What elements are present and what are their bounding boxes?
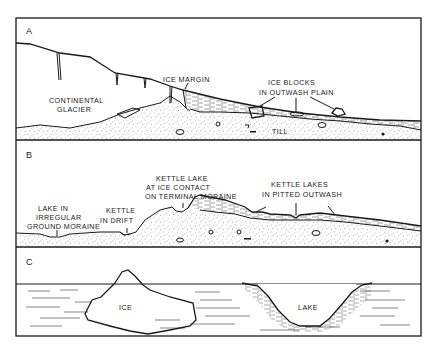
panel-a-letter: A [26,26,32,36]
kettle-lake-formation-diagram: A CONTINENTAL GLAC [0,0,436,350]
label-lake-in: LAKE IN [38,204,68,213]
label-kettle-lakes: KETTLE LAKES [271,180,328,189]
panel-c: C ICE LAKE [16,257,421,334]
label-kettle-lake: KETTLE LAKE [156,174,208,183]
panel-b-letter: B [26,150,32,160]
label-lake: LAKE [298,303,318,312]
panel-a: A CONTINENTAL GLAC [16,26,421,140]
label-pitted-outwash: IN PITTED OUTWASH [262,190,342,199]
label-ice-blocks: ICE BLOCKS [268,78,315,87]
label-in-drift: IN DRIFT [100,216,134,225]
ice-block-2 [332,108,345,116]
label-continental: CONTINENTAL [49,96,104,105]
panel-c-letter: C [26,257,33,267]
label-till: TILL [272,127,288,136]
label-at-ice-contact: AT ICE CONTACT [146,183,211,192]
label-on-terminal-moraine: ON TERMINAL MORAINE [145,192,237,201]
label-ice-margin: ICE MARGIN [163,75,210,84]
label-outwash-plain: IN OUTWASH PLAIN [259,88,334,97]
ice-block [85,270,196,334]
panel-b: B LAKE IN IRREGULAR GROUND MORAINE KETTL… [16,150,421,247]
label-ground-moraine: GROUND MORAINE [27,222,100,231]
label-glacier: GLACIER [57,105,91,114]
label-irregular: IRREGULAR [36,213,82,222]
label-kettle: KETTLE [106,206,136,215]
label-ice: ICE [119,303,132,312]
